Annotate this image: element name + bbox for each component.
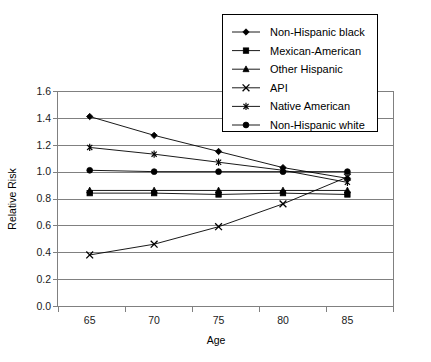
relative-risk-line-chart: 0.00.20.40.60.81.01.21.41.6 6570758085 A…: [0, 0, 431, 362]
y-tick-label-1.2: 1.2: [36, 139, 51, 151]
y-tick-label-0.6: 0.6: [36, 219, 51, 231]
x-tick-label-75: 75: [213, 314, 225, 326]
data-point: [216, 169, 222, 175]
legend-item-label: Other Hispanic: [270, 63, 343, 75]
y-tick-label-0.8: 0.8: [36, 192, 51, 204]
y-tick-label-0.2: 0.2: [36, 273, 51, 285]
y-axis-title: Relative Risk: [6, 168, 18, 230]
legend-item-label: Non-Hispanic white: [270, 119, 365, 131]
y-tick-label-0.0: 0.0: [36, 300, 51, 312]
legend-marker-square-icon: [243, 48, 248, 53]
chart-canvas: 0.00.20.40.60.81.01.21.41.6 6570758085 A…: [0, 0, 431, 362]
legend-marker-circle-icon: [243, 122, 249, 128]
data-point: [87, 167, 93, 173]
data-point: [280, 169, 286, 175]
legend-item-label: API: [270, 82, 288, 94]
y-tick-label-1.6: 1.6: [36, 85, 51, 97]
legend-item-label: Mexican-American: [270, 45, 361, 57]
data-point: [151, 169, 157, 175]
x-tick-label-70: 70: [148, 314, 160, 326]
legend-item-label: Non-Hispanic black: [270, 26, 365, 38]
data-point: [345, 169, 351, 175]
y-tick-label-1.4: 1.4: [36, 112, 51, 124]
x-tick-label-80: 80: [277, 314, 289, 326]
x-axis-title: Age: [207, 334, 226, 346]
y-tick-label-1.0: 1.0: [36, 165, 51, 177]
x-tick-label-65: 65: [84, 314, 96, 326]
legend-item-label: Native American: [270, 100, 350, 112]
y-tick-label-0.4: 0.4: [36, 246, 51, 258]
legend: Non-Hispanic blackMexican-AmericanOther …: [223, 15, 378, 132]
x-tick-label-85: 85: [342, 314, 354, 326]
